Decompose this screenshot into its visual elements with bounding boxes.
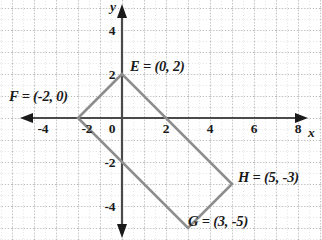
x-tick-4: 4: [203, 122, 217, 136]
point-label-g: G = (3, -5): [188, 214, 248, 229]
y-tick--2: -2: [101, 156, 119, 170]
x-tick-8: 8: [291, 122, 305, 136]
grid-major: [0, 0, 322, 240]
x-tick--4: -4: [34, 122, 52, 136]
y-tick--4: -4: [101, 200, 119, 214]
x-tick-6: 6: [247, 122, 261, 136]
coordinate-plane-figure: x y -4 -2 0 2 4 6 8 4 2 -2 -4 E = (0, 2)…: [0, 0, 322, 240]
y-axis-label: y: [110, 0, 116, 14]
point-label-f: F = (-2, 0): [9, 89, 68, 104]
plot-canvas: [0, 0, 322, 240]
x-tick--2: -2: [78, 122, 96, 136]
x-tick-2: 2: [159, 122, 173, 136]
x-axis-label: x: [308, 126, 315, 140]
point-label-h: H = (5, -3): [238, 170, 299, 185]
x-tick-0: 0: [105, 122, 119, 136]
y-tick-4: 4: [105, 24, 119, 38]
point-label-e: E = (0, 2): [130, 59, 185, 74]
y-tick-2: 2: [105, 68, 119, 82]
